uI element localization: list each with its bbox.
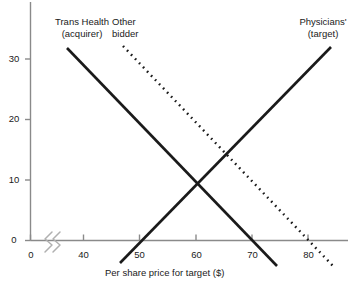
chart-container: 30 20 10 0 0 40 50 60 70 80 Per share pr… [0, 0, 360, 290]
x-axis-ticks [31, 235, 309, 241]
series-label-other-bidder-line1: Other [112, 16, 136, 27]
y-axis-ticks [25, 59, 31, 241]
x-tick-label-70: 70 [242, 249, 263, 260]
x-tick-label-60: 60 [186, 249, 207, 260]
axis-break-icon [45, 232, 60, 252]
series-label-target: Physicians' (target) [290, 16, 356, 39]
x-tick-label-40: 40 [73, 249, 94, 260]
y-tick-label-0: 0 [6, 234, 22, 245]
series-label-other-bidder: Other bidder [112, 16, 168, 39]
series-line-acquirer [67, 48, 277, 266]
chart-plot-area [0, 0, 360, 290]
y-tick-label-30: 30 [6, 53, 22, 64]
series-label-acquirer-line1: Trans Health [55, 16, 109, 27]
series-label-target-line2: (target) [308, 28, 339, 39]
x-tick-label-50: 50 [129, 249, 150, 260]
series-label-other-bidder-line2: bidder [112, 28, 138, 39]
series-label-target-line1: Physicians' [299, 16, 346, 27]
y-tick-label-10: 10 [6, 174, 22, 185]
x-axis-title: Per share price for target ($) [105, 267, 224, 278]
x-tick-label-0: 0 [21, 249, 41, 260]
x-tick-label-80: 80 [298, 249, 319, 260]
series-label-acquirer-line2: (acquirer) [62, 28, 103, 39]
y-tick-label-20: 20 [6, 113, 22, 124]
